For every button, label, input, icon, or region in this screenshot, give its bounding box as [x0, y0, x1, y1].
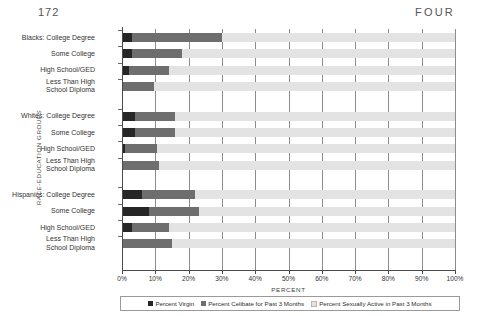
legend-item-celibate: Percent Celibate for Past 3 Months [201, 300, 304, 307]
gridline-100 [455, 29, 456, 270]
x-axis-tick-label: 70% [348, 275, 361, 282]
stacked-bar[interactable] [122, 66, 455, 75]
x-axis-tick-10 [155, 270, 156, 274]
page-number: 172 [38, 6, 59, 18]
legend-label-virgin: Percent Virgin [155, 300, 194, 307]
plot-area: Blacks: College DegreeSome CollegeHigh S… [122, 29, 455, 270]
stacked-bar[interactable] [122, 128, 455, 137]
bar-segment-celibate [142, 190, 195, 199]
stacked-bar[interactable] [122, 161, 455, 170]
category-label: Whites: College Degree [0, 112, 95, 120]
bar-segment-active [169, 66, 455, 75]
x-axis-tick-60 [322, 270, 323, 274]
legend-item-virgin: Percent Virgin [148, 300, 194, 307]
category-label: High School/GED [0, 145, 95, 153]
bar-segment-celibate [122, 161, 159, 170]
bar-segment-virgin [122, 112, 135, 121]
x-axis-tick-label: 20% [182, 275, 195, 282]
legend-swatch-celibate [201, 301, 206, 306]
x-axis-tick-30 [222, 270, 223, 274]
category-label: Less Than High School Diploma [0, 235, 95, 252]
bar-segment-virgin [122, 223, 132, 232]
legend-label-active: Percent Sexually Active in Past 3 Months [319, 300, 431, 307]
x-axis-tick-label: 80% [382, 275, 395, 282]
x-axis-tick-label: 60% [315, 275, 328, 282]
legend-item-active: Percent Sexually Active in Past 3 Months [311, 300, 431, 307]
figure-stacked-bar-chart: RACE-EDUCATION GROUPS Blacks: College De… [0, 22, 478, 316]
bar-segment-active [172, 239, 455, 248]
bar-segment-celibate [122, 239, 172, 248]
bar-segment-active [175, 112, 455, 121]
x-axis-tick-0 [122, 270, 123, 274]
x-axis-tick-80 [388, 270, 389, 274]
stacked-bar[interactable] [122, 33, 455, 42]
stacked-bar[interactable] [122, 112, 455, 121]
bar-segment-active [199, 207, 455, 216]
stacked-bar[interactable] [122, 190, 455, 199]
category-label: Some College [0, 207, 95, 215]
bar-segment-virgin [122, 33, 132, 42]
stacked-bar[interactable] [122, 49, 455, 58]
bar-segment-virgin [122, 207, 149, 216]
x-axis-tick-label: 0% [117, 275, 127, 282]
bar-segment-active [169, 223, 455, 232]
x-axis-ticks: 0%10%20%30%40%50%60%70%80%90%100% [122, 270, 455, 286]
x-axis-tick-90 [422, 270, 423, 274]
stacked-bar[interactable] [122, 239, 455, 248]
bar-segment-active [175, 128, 455, 137]
bar-segment-virgin [122, 49, 132, 58]
bar-segment-active [154, 82, 455, 91]
bar-segment-celibate [132, 49, 182, 58]
category-label: Less Than High School Diploma [0, 157, 95, 174]
x-axis-tick-20 [189, 270, 190, 274]
stacked-bar[interactable] [122, 144, 455, 153]
category-label: Hispanics: College Degree [0, 191, 95, 199]
stacked-bar[interactable] [122, 207, 455, 216]
x-axis-title: PERCENT [122, 286, 455, 293]
x-axis-tick-50 [289, 270, 290, 274]
bar-segment-celibate [129, 66, 169, 75]
bar-segment-active [195, 190, 455, 199]
legend-swatch-active [311, 301, 317, 307]
category-label: Some College [0, 129, 95, 137]
bar-segment-celibate [135, 128, 175, 137]
x-axis-tick-label: 30% [215, 275, 228, 282]
x-axis-tick-label: 90% [415, 275, 428, 282]
bar-segment-active [222, 33, 455, 42]
running-head-title: FOUR [415, 6, 455, 18]
x-axis-tick-label: 100% [447, 275, 464, 282]
running-head: 172 FOUR [0, 6, 478, 22]
legend-swatch-virgin [148, 301, 153, 306]
category-label: Less Than High School Diploma [0, 78, 95, 95]
y-axis-line [122, 27, 123, 272]
stacked-bar[interactable] [122, 223, 455, 232]
category-label: High School/GED [0, 224, 95, 232]
x-axis-tick-40 [255, 270, 256, 274]
bar-segment-celibate [132, 223, 169, 232]
bar-segment-virgin [122, 128, 135, 137]
bar-segment-celibate [132, 33, 222, 42]
x-axis-tick-label: 40% [249, 275, 262, 282]
bar-segment-active [157, 144, 455, 153]
bar-segment-celibate [122, 82, 154, 91]
x-axis-tick-label: 10% [149, 275, 162, 282]
x-axis-tick-100 [455, 270, 456, 274]
bar-segment-virgin [122, 190, 142, 199]
category-label: Blacks: College Degree [0, 34, 95, 42]
category-label: Some College [0, 50, 95, 58]
bar-segment-celibate [135, 112, 175, 121]
bar-segment-celibate [149, 207, 199, 216]
bar-segment-celibate [125, 144, 157, 153]
x-axis-tick-label: 50% [282, 275, 295, 282]
legend-label-celibate: Percent Celibate for Past 3 Months [208, 300, 304, 307]
chart-legend: Percent Virgin Percent Celibate for Past… [120, 296, 460, 311]
stacked-bar[interactable] [122, 82, 455, 91]
x-axis-tick-70 [355, 270, 356, 274]
category-label: High School/GED [0, 66, 95, 74]
bar-segment-active [159, 161, 455, 170]
bar-segment-active [182, 49, 455, 58]
